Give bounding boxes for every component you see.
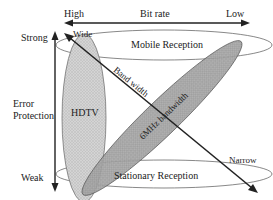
bitrate-error-protection-diagram: High Bit rate Low Strong Error Protectio… [0,0,273,200]
top-axis-low-label: Low [226,8,245,19]
diagonal-bandwidth-label: Band width [112,65,151,99]
diagonal-narrow-label: Narrow [229,155,257,165]
diagonal-wide-label: Wide [73,29,92,39]
top-axis-high-label: High [64,8,84,19]
arrow-up-head-icon [52,31,59,40]
stationary-reception-label: Stationary Reception [114,170,198,181]
hdtv-label: HDTV [71,107,100,118]
top-axis-bitrate-label: Bit rate [140,8,170,19]
left-axis-error-label: Error [13,98,35,109]
left-axis-protection-label: Protection [13,110,54,121]
arrow-right-head-icon [241,20,250,27]
mobile-reception-label: Mobile Reception [131,39,203,50]
left-axis-strong-label: Strong [21,32,48,43]
arrow-down-head-icon [52,183,59,192]
left-axis-weak-label: Weak [21,172,44,183]
arrow-left-head-icon [64,20,73,27]
